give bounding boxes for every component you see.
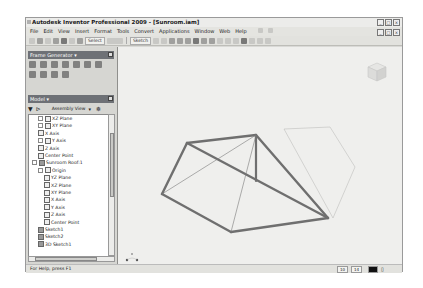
sunroom-roof-frame-model[interactable] [118,47,402,264]
tree-node[interactable]: XY Plane [38,122,72,129]
tree-node[interactable]: XZ Plane [38,115,72,122]
trim-to-frame-icon[interactable] [84,61,91,68]
new-icon[interactable] [29,38,35,44]
open-icon[interactable] [37,38,43,44]
camera-icon[interactable] [257,38,263,44]
notch-icon[interactable] [62,61,69,68]
tree-node[interactable]: Sketch1 [38,226,63,233]
zoom-window-icon[interactable] [177,38,183,44]
maximize-button[interactable]: □ [385,19,392,26]
steering-wheel-icon[interactable] [233,38,239,44]
look-at-icon[interactable] [217,38,223,44]
expand-icon[interactable] [32,160,37,165]
minimize-button[interactable]: _ [377,19,384,26]
lengthen-shorten-icon[interactable] [95,61,102,68]
close-button[interactable]: × [393,19,400,26]
column-calculator-icon[interactable] [51,71,58,78]
model-header[interactable]: Model ▾ [28,95,114,103]
status-icon: ▯ [381,265,384,273]
expand-icon[interactable] [38,116,43,121]
miter-icon[interactable] [51,61,58,68]
display-mode-icon[interactable] [241,38,247,44]
update-icon[interactable] [153,38,159,44]
menu-view[interactable]: View [58,28,70,34]
expand-icon[interactable] [38,168,43,173]
beam-calculator-icon[interactable] [40,71,47,78]
measure-icon[interactable] [161,38,167,44]
return-button[interactable] [107,38,123,44]
plane-icon [44,190,50,196]
menu-format[interactable]: Format [94,28,112,34]
tree-node-label: 3D Sketch1 [45,241,71,248]
tree-node[interactable]: YZ Plane [44,174,71,181]
doc-close-button[interactable]: × [393,29,400,36]
change-frame-icon[interactable] [40,61,47,68]
color-icon[interactable] [265,38,271,44]
whats-this-icon[interactable] [268,28,273,33]
model-panel-menu-icon[interactable] [108,96,113,101]
shadow-icon[interactable] [249,38,255,44]
menu-window[interactable]: Window [195,28,215,34]
tree-node[interactable]: Sunroom Roof:1 [32,159,83,166]
tree-node[interactable]: 3D Sketch1 [38,241,71,248]
frame-member-info-icon[interactable] [62,71,69,78]
menu-edit[interactable]: Edit [43,28,53,34]
menu-web[interactable]: Web [219,28,230,34]
tree-node[interactable]: Center Point [38,152,73,159]
view-cube-icon[interactable] [225,38,231,44]
tree-node[interactable]: XZ Plane [44,182,71,189]
tree-node[interactable]: Z Axis [38,145,59,152]
graphics-viewport[interactable] [118,47,402,264]
doc-restore-button[interactable]: □ [385,29,392,36]
tree-node[interactable]: X Axis [38,130,59,137]
tree-horizontal-scrollbar[interactable] [28,256,115,262]
vertical-scroll-thumb[interactable] [110,133,114,197]
menu-applications[interactable]: Applications [159,28,190,34]
tree-node[interactable]: Center Point [44,219,79,226]
tree-node[interactable]: Y Axis [44,204,65,211]
select-icon[interactable] [77,38,83,44]
tree-vertical-scrollbar[interactable] [108,114,115,256]
zoom-all-icon[interactable] [169,38,175,44]
trim-extend-icon[interactable] [73,61,80,68]
insert-frame-icon[interactable] [29,61,36,68]
app-icon [27,20,31,24]
pan-icon[interactable] [193,38,199,44]
expand-icon[interactable] [38,138,43,143]
menu-file[interactable]: File [30,28,38,34]
toolbar-separator [126,37,127,44]
zoom-icon[interactable] [185,38,191,44]
view-dropdown-chevron-icon[interactable]: ▾ [88,106,91,112]
orbit-icon[interactable] [209,38,215,44]
menu-tools[interactable]: Tools [117,28,129,34]
binoculars-icon[interactable]: ⛯ [96,105,101,113]
plane-icon [45,123,51,129]
tree-node[interactable]: Z Axis [44,211,65,218]
tree-node[interactable]: Sketch2 [38,233,63,240]
frame-generator-header[interactable]: Frame Generator ▾ [28,51,114,59]
tree-node[interactable]: XY Plane [44,189,71,196]
doc-minimize-button[interactable]: _ [377,29,384,36]
assembly-view-dropdown[interactable]: Assembly View [52,106,86,111]
model-options-icon[interactable]: ⊳ [36,105,41,112]
menu-help[interactable]: Help [235,28,246,34]
tree-node[interactable]: Y Axis [38,137,66,144]
menu-insert[interactable]: Insert [75,28,89,34]
help-topics-icon[interactable] [258,28,263,33]
zoom-selected-icon[interactable] [201,38,207,44]
tree-node[interactable]: X Axis [44,196,65,203]
panel-menu-icon[interactable] [108,52,113,57]
cut-icon[interactable] [45,38,51,44]
sketch-button[interactable]: Sketch [130,37,151,45]
filter-icon[interactable]: ▼ [28,105,33,112]
model-browser-tree[interactable]: XZ PlaneXY PlaneX AxisY AxisZ AxisCenter… [28,114,110,258]
expand-icon[interactable] [38,123,43,128]
menu-convert[interactable]: Convert [134,28,154,34]
redo-icon[interactable] [69,38,75,44]
remove-end-treatment-icon[interactable] [29,71,36,78]
tree-node[interactable]: Origin [38,167,66,174]
undo-icon[interactable] [61,38,67,44]
horizontal-scroll-thumb[interactable] [35,257,97,261]
save-icon[interactable] [53,38,59,44]
select-dropdown[interactable]: Select [85,37,105,45]
